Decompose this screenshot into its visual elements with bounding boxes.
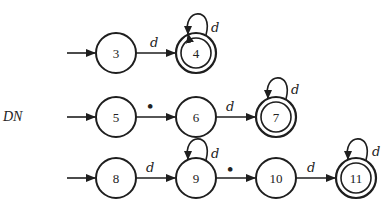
edge-10-11-label: d — [307, 160, 315, 175]
state-11-label: 11 — [350, 171, 363, 186]
edge-8-9-label: d — [146, 160, 154, 175]
row-2 — [67, 78, 296, 137]
edge-5-6-label: • — [146, 99, 154, 114]
self-loop-9 — [187, 139, 207, 160]
self-loop-7-label: d — [291, 82, 299, 97]
state-3-label: 3 — [113, 46, 120, 61]
state-9-label: 9 — [193, 171, 200, 186]
edge-6-7-label: d — [226, 99, 234, 114]
self-loop-11 — [347, 139, 367, 160]
state-7-label: 7 — [273, 110, 280, 125]
state-4-label: 4 — [193, 46, 200, 61]
self-loop-9-label: d — [211, 146, 219, 161]
state-6-label: 6 — [193, 110, 200, 125]
edge-3-4-label: d — [150, 35, 158, 50]
self-loop-7 — [267, 78, 287, 99]
row-3 — [67, 139, 376, 198]
self-loop-4 — [187, 14, 207, 35]
state-8-label: 8 — [113, 171, 120, 186]
self-loop-4-label: d — [211, 20, 219, 35]
edge-9-10-label: • — [226, 162, 234, 177]
row-1 — [67, 14, 216, 73]
nfa-diagram: 3 4 5 6 7 8 9 10 11 d d • d d d d • d d — [0, 0, 389, 214]
self-loop-11-label: d — [372, 144, 380, 159]
state-5-label: 5 — [113, 110, 120, 125]
state-10-label: 10 — [270, 171, 283, 186]
